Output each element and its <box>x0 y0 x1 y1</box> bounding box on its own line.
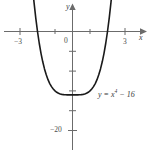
y-axis-label: y <box>66 3 70 11</box>
equation-lhs: y = x <box>98 90 115 99</box>
plot-canvas <box>0 0 151 152</box>
x-tick-label-neg3: −3 <box>14 38 22 46</box>
equation-rhs: − 16 <box>117 90 134 99</box>
x-axis-label: x <box>139 34 143 42</box>
y-tick-label-neg20: −20 <box>50 126 62 134</box>
curve-equation-annotation: y = x4 − 16 <box>98 89 135 99</box>
x-tick-label-3: 3 <box>123 38 127 46</box>
function-graph-figure: x y −3 3 0 −20 y = x4 − 16 <box>0 0 151 152</box>
origin-label: 0 <box>64 37 68 45</box>
y-axis-arrow-icon <box>69 4 75 11</box>
